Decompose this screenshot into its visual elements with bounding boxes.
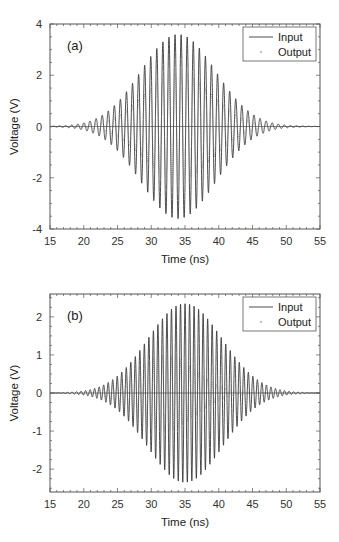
x-tick-label: 55 <box>314 498 326 510</box>
y-tick-label: 2 <box>36 69 42 81</box>
legend-input-label: Input <box>278 301 302 313</box>
legend: Input Output <box>243 27 316 61</box>
x-tick-label: 50 <box>280 498 292 510</box>
y-axis-label: Voltage (V) <box>8 98 20 155</box>
x-tick-label: 30 <box>145 498 157 510</box>
y-tick-label: -4 <box>32 223 42 235</box>
x-tick-label: 40 <box>213 235 225 247</box>
y-tick-label: 2 <box>36 311 42 323</box>
x-axis-label: Time (ns) <box>161 516 209 528</box>
x-tick-label: 35 <box>179 498 191 510</box>
y-tick-label: 4 <box>36 18 42 30</box>
y-tick-label: 1 <box>36 349 42 361</box>
legend-output-swatch <box>260 51 262 53</box>
x-tick-label: 45 <box>246 498 258 510</box>
y-tick-label: -2 <box>32 463 42 475</box>
y-tick-label: 0 <box>36 387 42 399</box>
legend-output-label: Output <box>278 316 311 328</box>
legend: Input Output <box>243 297 316 331</box>
y-tick-label: 0 <box>36 121 42 133</box>
x-axis-label: Time (ns) <box>161 253 209 265</box>
x-tick-label: 35 <box>179 235 191 247</box>
chart-panel-a: 152025303540455055-4-2024 (a) Input Outp… <box>8 18 326 265</box>
x-tick-label: 50 <box>280 235 292 247</box>
x-tick-label: 15 <box>44 235 56 247</box>
x-tick-label: 45 <box>246 235 258 247</box>
y-tick-label: -1 <box>32 425 42 437</box>
x-tick-label: 40 <box>213 498 225 510</box>
y-axis-label: Voltage (V) <box>8 364 20 421</box>
legend-output-label: Output <box>278 46 311 58</box>
legend-output-swatch <box>260 321 262 323</box>
x-tick-label: 30 <box>145 235 157 247</box>
x-tick-label: 55 <box>314 235 326 247</box>
panel-label: (a) <box>67 38 83 53</box>
figure: 152025303540455055-4-2024 (a) Input Outp… <box>0 0 339 542</box>
x-tick-label: 25 <box>111 235 123 247</box>
chart-panel-b: 152025303540455055-2-1012 (b) Input Outp… <box>8 294 326 528</box>
signal-traces <box>50 35 320 219</box>
x-tick-label: 20 <box>78 498 90 510</box>
x-tick-label: 15 <box>44 498 56 510</box>
x-tick-label: 25 <box>111 498 123 510</box>
legend-input-label: Input <box>278 31 302 43</box>
x-tick-label: 20 <box>78 235 90 247</box>
panel-label: (b) <box>67 308 83 323</box>
y-tick-label: -2 <box>32 172 42 184</box>
